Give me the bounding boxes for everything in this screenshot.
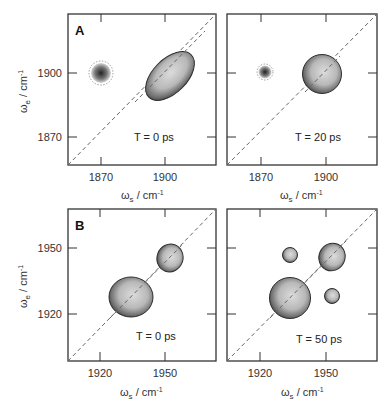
panel-letter-b: B [75, 218, 84, 233]
x-axis-label: ωs / cm-1 [120, 386, 163, 401]
svg-text:1870: 1870 [89, 171, 113, 183]
x-axis-label: ωs / cm-1 [281, 386, 324, 401]
peak-diagonal [137, 43, 203, 109]
panel-a-left: A T = 0 ps 1870 1900 1900 1870 ωs / cm-1… [17, 14, 216, 204]
figure: A T = 0 ps 1870 1900 1900 1870 ωs / cm-1… [0, 0, 392, 410]
peak-cross [91, 63, 111, 83]
svg-text:1950: 1950 [314, 367, 338, 379]
peak-cross [259, 66, 272, 79]
svg-text:1950: 1950 [38, 242, 62, 254]
svg-text:1870: 1870 [38, 131, 62, 143]
panel-a-right: T = 20 ps 1870 1900 ωs / cm-1 [227, 14, 377, 204]
time-label: T = 0 ps [136, 330, 176, 342]
svg-text:1920: 1920 [248, 367, 272, 379]
svg-text:1920: 1920 [38, 308, 62, 320]
svg-text:1900: 1900 [153, 171, 177, 183]
svg-text:1950: 1950 [153, 367, 177, 379]
panel-letter-a: A [75, 23, 85, 38]
time-label: T = 50 ps [296, 333, 342, 345]
panel-b-right: T = 50 ps 1920 1950 ωs / cm-1 [227, 209, 377, 401]
x-axis-label: ωs / cm-1 [121, 189, 164, 204]
svg-text:1900: 1900 [314, 171, 338, 183]
y-axis-label: ωe / cm-1 [17, 70, 32, 113]
panel-b-left: B T = 0 ps 1920 1950 1950 1920 ωs / cm-1… [17, 209, 216, 401]
svg-text:1900: 1900 [38, 67, 62, 79]
x-axis-label: ωs / cm-1 [280, 189, 323, 204]
svg-text:1920: 1920 [88, 367, 112, 379]
cross-peak-upper [283, 248, 298, 263]
peak-high [314, 239, 349, 275]
time-label: T = 20 ps [295, 131, 341, 143]
y-axis-label: ωe / cm-1 [17, 265, 32, 308]
cross-peak-lower [325, 289, 340, 304]
time-label: T = 0 ps [134, 131, 174, 143]
svg-text:1870: 1870 [249, 171, 273, 183]
